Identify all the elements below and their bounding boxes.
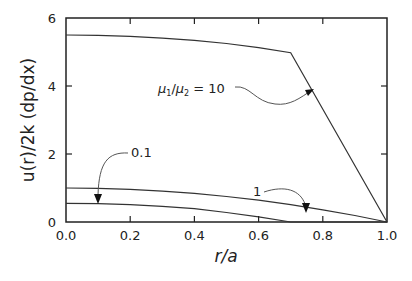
svg-text:1: 1 <box>253 184 261 199</box>
y-tick-label: 2 <box>48 147 56 162</box>
x-tick-label: 0.4 <box>184 228 205 243</box>
axis-ticks: 0.00.20.40.60.81.00246 <box>48 11 398 243</box>
x-tick-label: 0.6 <box>248 228 269 243</box>
x-tick-label: 0.0 <box>56 228 77 243</box>
y-axis-label: u(r)/2k (dp/dx) <box>18 58 38 182</box>
y-tick-label: 6 <box>48 11 56 26</box>
y-tick-label: 0 <box>48 215 56 230</box>
annotation-mu-ratio: μ1/μ2 = 10 <box>157 81 314 104</box>
plot-frame <box>66 18 387 222</box>
x-axis-label: r/a <box>214 246 237 266</box>
y-tick-label: 4 <box>48 79 56 94</box>
data-curves <box>66 35 387 222</box>
arrowhead-icon <box>94 194 102 204</box>
x-tick-label: 1.0 <box>377 228 398 243</box>
annotation-point-one: 0.1 <box>94 145 152 204</box>
plot-area <box>66 18 387 222</box>
series-line-0 <box>66 35 387 222</box>
annotation-one: 1 <box>253 184 310 213</box>
x-tick-label: 0.2 <box>120 228 141 243</box>
series-line-1 <box>66 188 387 222</box>
svg-text:0.1: 0.1 <box>131 145 152 160</box>
chart: 0.00.20.40.60.81.00246 μ1/μ2 = 10 1 0.1 … <box>0 0 412 281</box>
x-tick-label: 0.8 <box>312 228 333 243</box>
svg-text:μ1/μ2 = 10: μ1/μ2 = 10 <box>157 81 225 98</box>
arrow-mu-ratio <box>235 87 312 104</box>
